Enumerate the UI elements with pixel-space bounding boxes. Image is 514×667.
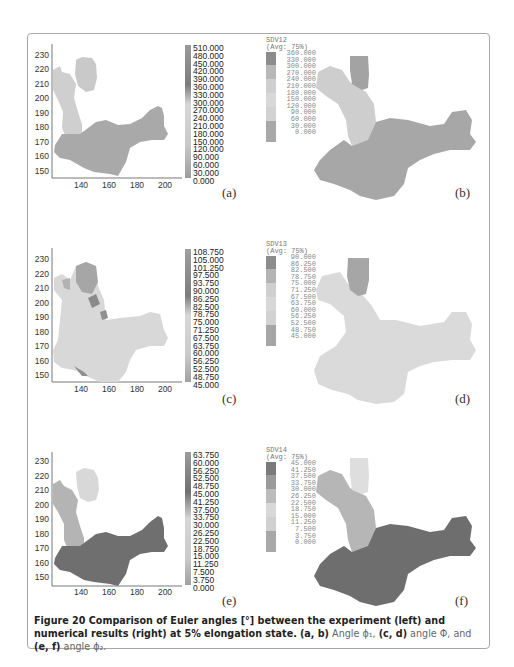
- caption-panel-ref: (c, d): [379, 628, 407, 639]
- caption-text: Angle ϕ₁,: [332, 628, 376, 639]
- grain-map-f: [0, 0, 514, 667]
- figure-caption: Figure 20 Comparison of Euler angles [°]…: [34, 614, 486, 653]
- panel-label-f: (f): [455, 593, 468, 609]
- legend-value: 0.000: [276, 539, 316, 545]
- caption-text: angle Φ, and: [410, 628, 471, 639]
- caption-panel-ref: (e, f): [34, 641, 60, 652]
- caption-text: angle ϕ₂.: [64, 641, 107, 652]
- caption-panel-ref: (a, b): [300, 628, 329, 639]
